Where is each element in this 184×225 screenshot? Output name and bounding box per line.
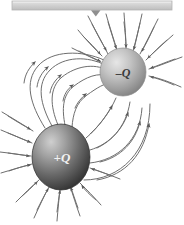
- field-line-into-neg-right-3: [149, 76, 181, 87]
- field-line-out-pos-bottom-4: [70, 186, 80, 216]
- field-line-out-pos-left-1: [2, 112, 33, 131]
- field-line-arc-right-1: [86, 98, 116, 138]
- field-line-into-neg-top-5: [140, 19, 158, 54]
- field-line-arc-left-2: [37, 59, 105, 126]
- field-line-into-neg-right-2: [149, 57, 182, 69]
- field-lines: [0, 13, 182, 221]
- positive-charge-label: +Q: [54, 150, 71, 165]
- field-line-out-pos-left-4: [1, 164, 32, 173]
- field-line-out-pos-left-2: [1, 130, 32, 143]
- field-line-out-pos-left-3: [0, 152, 31, 156]
- field-line-into-neg-top-3: [124, 13, 126, 49]
- field-line-arc-left-5: [72, 83, 112, 127]
- field-line-into-neg-right-1: [146, 35, 173, 60]
- positive-charge-sphere: +Q: [32, 124, 90, 190]
- field-line-into-neg-top-1: [88, 16, 108, 54]
- field-line-out-pos-bottom-1: [16, 180, 39, 202]
- field-line-into-neg-top-2: [106, 14, 117, 50]
- field-line-into-neg-top-4: [133, 14, 142, 51]
- field-line-out-pos-bottom-2: [34, 187, 49, 218]
- field-diagram-canvas: –Q +Q: [0, 0, 184, 225]
- down-triangle-marker: [91, 10, 101, 16]
- negative-charge-label: –Q: [115, 66, 131, 80]
- electric-dipole-figure: –Q +Q: [0, 0, 184, 225]
- negative-charge-sphere: –Q: [100, 48, 146, 96]
- field-line-arc-right-3: [90, 108, 142, 163]
- field-line-arc-right-4: [84, 104, 150, 180]
- ceiling-bar: [12, 1, 172, 10]
- field-line-out-pos-bottom-3: [57, 189, 60, 221]
- field-line-out-pos-bottom-5: [80, 183, 101, 205]
